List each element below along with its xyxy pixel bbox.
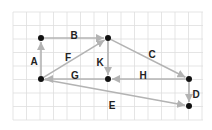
node-n4 — [105, 76, 111, 82]
edge-label-h: H — [139, 70, 146, 81]
nodes — [38, 35, 192, 109]
edge-label-g: G — [71, 70, 79, 81]
edge-label-c: C — [148, 49, 155, 60]
edge-label-d: D — [192, 89, 199, 100]
node-n2 — [105, 35, 111, 41]
edges — [41, 38, 189, 105]
node-n6 — [186, 103, 192, 109]
edge-label-e: E — [109, 100, 116, 111]
edge-label-a: A — [30, 56, 37, 67]
edge-label-f: F — [65, 52, 71, 63]
directed-graph-diagram: ABCDEFGHK — [0, 0, 212, 130]
node-n1 — [38, 35, 44, 41]
edge-label-b: B — [70, 30, 77, 41]
node-n3 — [38, 76, 44, 82]
node-n5 — [186, 76, 192, 82]
edge-label-k: K — [96, 57, 104, 68]
